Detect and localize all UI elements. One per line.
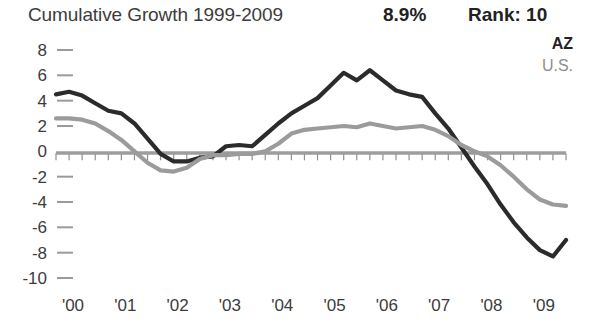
y-tick-label: -10 xyxy=(22,269,47,288)
series-line-us xyxy=(56,118,566,205)
y-tick-label: -6 xyxy=(32,218,47,237)
x-tick-label: '01 xyxy=(114,296,136,315)
x-tick-label: '08 xyxy=(480,296,502,315)
x-tick-label: '03 xyxy=(219,296,241,315)
plot-svg: 86420-2-4-6-8-10 '00'01'02'03'04'05'06'0… xyxy=(0,0,597,328)
y-axis-labels: 86420-2-4-6-8-10 xyxy=(22,41,47,288)
y-tick-label: 6 xyxy=(38,66,47,85)
x-tick-label: '00 xyxy=(62,296,84,315)
x-tick-label: '02 xyxy=(167,296,189,315)
y-tick-label: 4 xyxy=(38,92,47,111)
y-tick-label: -2 xyxy=(32,168,47,187)
x-axis-labels: '00'01'02'03'04'05'06'07'08'09 xyxy=(62,296,555,315)
series-line-az xyxy=(56,70,566,256)
x-tick-label: '07 xyxy=(428,296,450,315)
y-axis-ticks xyxy=(57,50,73,278)
series-group xyxy=(56,70,566,256)
cumulative-growth-chart: Cumulative Growth 1999-2009 8.9% Rank: 1… xyxy=(0,0,597,328)
x-tick-label: '04 xyxy=(271,296,293,315)
y-tick-label: -8 xyxy=(32,244,47,263)
y-tick-label: -4 xyxy=(32,193,47,212)
x-tick-label: '06 xyxy=(376,296,398,315)
y-tick-label: 2 xyxy=(38,117,47,136)
plot-area: 86420-2-4-6-8-10 '00'01'02'03'04'05'06'0… xyxy=(0,0,597,328)
x-tick-label: '05 xyxy=(323,296,345,315)
y-tick-label: 0 xyxy=(38,142,47,161)
y-tick-label: 8 xyxy=(38,41,47,60)
x-tick-label: '09 xyxy=(533,296,555,315)
